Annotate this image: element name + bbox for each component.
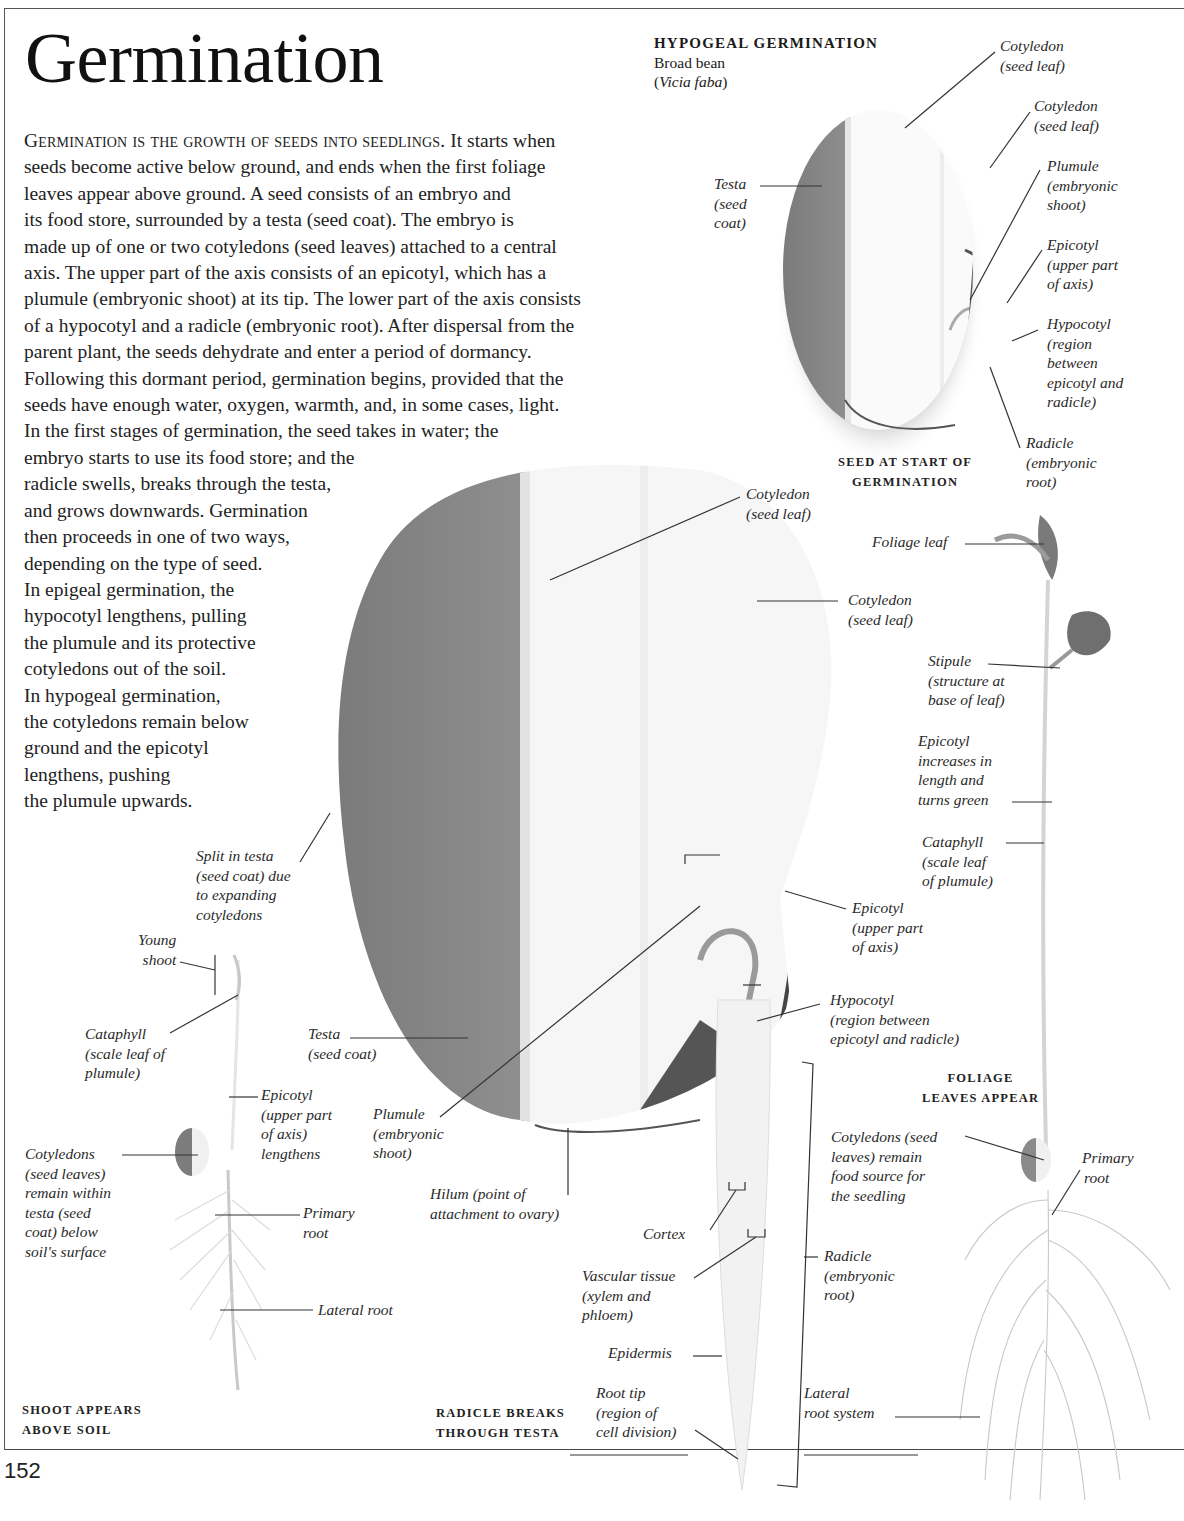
hypogeal-heading: HYPOGEAL GERMINATION: [654, 34, 878, 53]
label-fl-foliage-leaf: Foliage leaf: [872, 532, 947, 552]
label-fl-epicotyl: Epicotylincreases inlength andturns gree…: [918, 731, 992, 809]
label-rb-vascular-tissue: Vascular tissue(xylem andphloem): [582, 1266, 675, 1325]
label-rb-cotyledon-1: Cotyledon(seed leaf): [746, 484, 811, 523]
label-rb-split-in-testa: Split in testa(seed coat) dueto expandin…: [196, 846, 291, 924]
label-seed-start-testa: Testa(seedcoat): [714, 174, 747, 233]
species-name: (Vicia faba): [654, 72, 878, 91]
label-sa-cataphyll: Cataphyll(scale leaf ofplumule): [85, 1024, 165, 1083]
label-rb-epidermis: Epidermis: [608, 1343, 672, 1363]
label-seed-start-hypocotyl: Hypocotyl(regionbetweenepicotyl andradic…: [1047, 314, 1123, 412]
label-seed-start-cotyledon-1: Cotyledon(seed leaf): [1000, 36, 1065, 75]
common-name: Broad bean: [654, 53, 878, 72]
label-fl-lateral-root-system: Lateralroot system: [804, 1383, 874, 1422]
label-rb-epicotyl: Epicotyl(upper partof axis): [852, 898, 923, 957]
label-sa-cotyledons: Cotyledons(seed leaves)remain withintest…: [25, 1144, 111, 1261]
label-fl-primary-root: Primaryroot: [1082, 1148, 1134, 1187]
label-fl-stipule: Stipule(structure atbase of leaf): [928, 651, 1005, 710]
label-seed-start-epicotyl: Epicotyl(upper partof axis): [1047, 235, 1118, 294]
caption-seed-start: SEED AT START OFGERMINATION: [838, 452, 972, 492]
label-seed-start-cotyledon-2: Cotyledon(seed leaf): [1034, 96, 1099, 135]
intro-paragraph: Germination is the growth of seeds into …: [24, 128, 581, 815]
label-rb-cortex: Cortex: [643, 1224, 685, 1244]
label-seed-start-radicle: Radicle(embryonicroot): [1026, 433, 1097, 492]
shoot-appears-image: [170, 955, 270, 1390]
caption-shoot-appears: SHOOT APPEARSABOVE SOIL: [22, 1400, 142, 1440]
label-rb-root-tip: Root tip(region ofcell division): [596, 1383, 677, 1442]
label-fl-cataphyll: Cataphyll(scale leafof plumule): [922, 832, 993, 891]
label-rb-hypocotyl: Hypocotyl(region betweenepicotyl and rad…: [830, 990, 959, 1049]
label-rb-cotyledon-2: Cotyledon(seed leaf): [848, 590, 913, 629]
page-number: 152: [4, 1458, 41, 1484]
label-sa-young-shoot: Youngshoot: [138, 930, 176, 969]
label-fl-cotyledons: Cotyledons (seedleaves) remainfood sourc…: [831, 1127, 937, 1205]
label-rb-hilum: Hilum (point ofattachment to ovary): [430, 1184, 559, 1223]
label-rb-plumule: Plumule(embryonicshoot): [373, 1104, 444, 1163]
label-seed-start-plumule: Plumule(embryonicshoot): [1047, 156, 1118, 215]
caption-radicle-breaks: RADICLE BREAKSTHROUGH TESTA: [436, 1403, 565, 1443]
intro-lead: Germination is the growth of seeds into …: [24, 130, 445, 151]
label-sa-lateral-root: Lateral root: [318, 1300, 393, 1320]
label-rb-testa: Testa(seed coat): [308, 1024, 376, 1063]
caption-foliage-leaves: FOLIAGELEAVES APPEAR: [922, 1068, 1039, 1108]
hypogeal-heading-block: HYPOGEAL GERMINATION Broad bean (Vicia f…: [654, 34, 878, 91]
label-rb-radicle: Radicle(embryonicroot): [824, 1246, 895, 1305]
label-sa-epicotyl: Epicotyl(upper partof axis)lengthens: [261, 1085, 332, 1163]
label-sa-primary-root: Primaryroot: [303, 1203, 355, 1242]
seed-start-image: [775, 100, 986, 465]
